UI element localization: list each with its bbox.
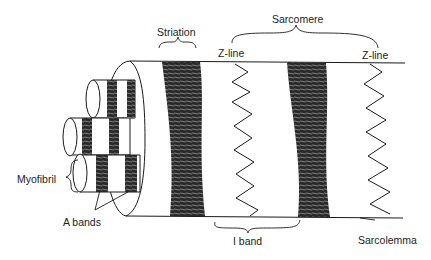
sarcomere-brace [232,25,378,48]
z-line-right-label: Z-line [362,50,388,61]
a-band [127,80,135,118]
myofibril-label: Myofibril [17,174,56,185]
a-band [109,118,119,155]
a-band [125,155,137,192]
a-band [96,155,108,192]
z-line-left-label: Z-line [218,48,244,59]
striation-band-1 [162,62,205,216]
striation-label: Striation [157,27,196,38]
z-line-right [364,64,390,214]
a-band [107,80,117,118]
i-band-label: I band [233,236,262,247]
sarcolemma-label: Sarcolemma [358,235,417,246]
striation-brace [159,37,196,48]
a-bands-label: A bands [63,217,101,228]
i-band-brace [215,220,300,233]
sarcomere-label: Sarcomere [272,14,323,25]
fiber-bottom-edge [126,216,403,218]
a-band [82,118,92,155]
z-line-left [232,64,258,216]
striation-band-2 [287,62,330,217]
